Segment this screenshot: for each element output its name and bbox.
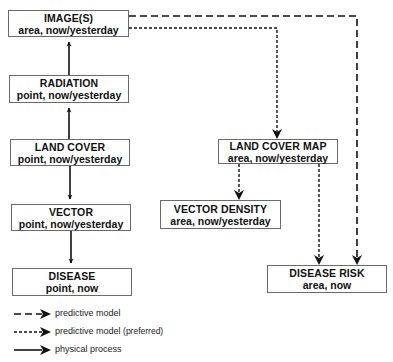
node-title: IMAGE(S): [9, 12, 128, 24]
node-title: DISEASE: [13, 270, 131, 282]
legend-glyphs: [14, 309, 51, 355]
node-subtitle: area, now/yesterday: [9, 24, 128, 36]
node-subtitle: point, now/yesterday: [12, 218, 130, 230]
node-title: LAND COVER: [11, 141, 129, 153]
node-subtitle: point, now/yesterday: [11, 153, 129, 165]
legend-label: physical process: [55, 344, 122, 354]
node-title: VECTOR DENSITY: [161, 203, 280, 215]
node-disease: DISEASE point, now: [12, 268, 132, 296]
node-subtitle: point, now/yesterday: [10, 89, 128, 101]
node-disease-risk: DISEASE RISK area, now: [267, 265, 387, 293]
node-vector: VECTOR point, now/yesterday: [11, 204, 131, 231]
node-radiation: RADIATION point, now/yesterday: [9, 75, 129, 103]
node-land-cover-map: LAND COVER MAP area, now/yesterday: [218, 139, 338, 164]
node-land-cover: LAND COVER point, now/yesterday: [10, 139, 130, 166]
node-title: VECTOR: [12, 206, 130, 218]
legend-label: predictive model: [55, 308, 121, 318]
node-title: DISEASE RISK: [268, 267, 386, 279]
legend-label: predictive model: [55, 326, 121, 336]
node-title: RADIATION: [10, 77, 128, 89]
node-title: LAND COVER MAP: [219, 140, 337, 152]
legend-note: (preferred): [123, 326, 163, 336]
legend-predictive-model-preferred: predictive model (preferred): [55, 326, 163, 336]
node-subtitle: point, now: [13, 282, 131, 294]
node-subtitle: area, now: [268, 279, 386, 291]
legend-predictive-model: predictive model: [55, 308, 121, 318]
node-subtitle: area, now/yesterday: [161, 215, 280, 227]
node-subtitle: area, now/yesterday: [219, 152, 337, 164]
legend-physical-process: physical process: [55, 344, 122, 354]
node-vector-density: VECTOR DENSITY area, now/yesterday: [160, 200, 281, 229]
node-images: IMAGE(S) area, now/yesterday: [8, 10, 129, 37]
